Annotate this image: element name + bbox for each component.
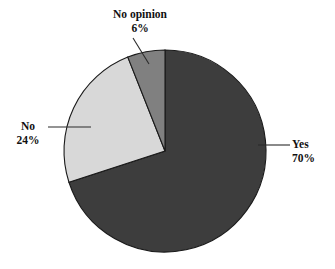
- slice-value-yes: 70%: [292, 152, 334, 166]
- slice-label-no-opinion: No opinion: [98, 8, 182, 22]
- slice-callout-no-opinion: No opinion 6%: [98, 8, 182, 35]
- slice-label-no: No: [8, 120, 48, 134]
- slice-value-no-opinion: 6%: [98, 22, 182, 36]
- slice-label-yes: Yes: [292, 138, 334, 152]
- pie-chart-figure: No opinion 6% No 24% Yes 70%: [0, 0, 335, 269]
- pie-chart-graphic: [0, 0, 335, 269]
- slice-callout-no: No 24%: [8, 120, 48, 147]
- slice-value-no: 24%: [8, 134, 48, 148]
- slice-callout-yes: Yes 70%: [292, 138, 334, 165]
